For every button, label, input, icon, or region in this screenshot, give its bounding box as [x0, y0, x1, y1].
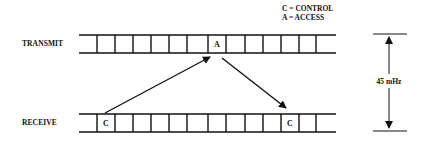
transmit-channel-ladder — [79, 35, 336, 53]
receive-channel-ladder — [79, 114, 336, 132]
arrow-receive-to-transmit — [105, 57, 210, 113]
access-slot-letter: A — [214, 40, 220, 49]
frequency-diagram: A C C 45 mHz — [0, 0, 426, 141]
control-slot-letter-1: C — [103, 119, 109, 128]
control-slot-letter-2: C — [287, 119, 293, 128]
arrow-transmit-to-receive — [222, 58, 286, 108]
separation-label: 45 mHz — [377, 77, 402, 86]
